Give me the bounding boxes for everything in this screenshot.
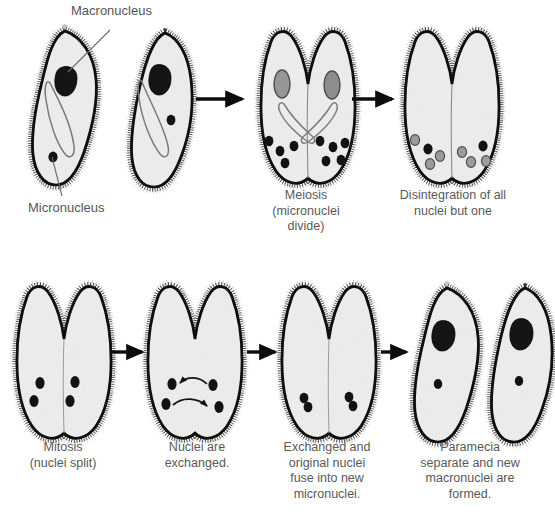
micronucleus <box>167 115 176 125</box>
paramecium-cell <box>415 288 479 442</box>
micronucleus <box>515 376 523 386</box>
stage-6-group <box>282 287 376 438</box>
macronucleus <box>510 319 533 350</box>
caption-nuclei-exchanged: Nuclei are exchanged. <box>142 440 252 471</box>
caption-mitosis: Mitosis (nuclei split) <box>4 440 122 471</box>
micronucleus-dark <box>478 141 487 152</box>
macronucleus-gray <box>274 70 290 98</box>
stage-3-group <box>405 32 499 183</box>
stage-2-group <box>261 32 355 183</box>
macronucleus <box>149 65 171 95</box>
paramecium-cell-labeled <box>33 31 97 185</box>
caption-meiosis: Meiosis (micronuclei divide) <box>250 188 362 235</box>
micronucleus-gray <box>466 157 475 168</box>
micronucleus-label: Micronucleus <box>28 200 105 216</box>
micronucleus-gray <box>410 135 419 146</box>
micronucleus-gray <box>481 156 490 167</box>
stage-7-group <box>415 288 552 442</box>
caption-separation: Paramecia separate and new macronuclei a… <box>400 440 540 502</box>
micronucleus-gray <box>425 159 434 170</box>
paramecium-cell <box>132 33 192 187</box>
micronucleus-dark <box>423 144 432 155</box>
stage-5-group <box>148 287 242 438</box>
paramecium-conjugation-diagram <box>0 0 555 515</box>
paramecium-cell <box>492 288 552 442</box>
macronucleus-gray <box>324 71 340 99</box>
macronucleus-label: Macronucleus <box>71 3 152 19</box>
micronucleus-gray <box>435 151 444 162</box>
stage-1-group <box>33 30 242 196</box>
micronucleus <box>434 379 442 389</box>
caption-disintegration: Disintegration of all nuclei but one <box>383 188 523 219</box>
stage-4-group <box>17 287 111 438</box>
micronucleus-gray <box>457 147 466 158</box>
caption-fusion: Exchanged and original nuclei fuse into … <box>268 440 386 502</box>
